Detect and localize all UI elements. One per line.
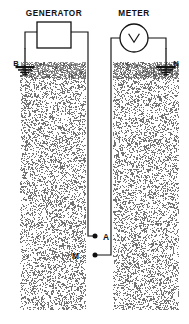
generator-label: GENERATOR — [26, 9, 83, 18]
electrode-a-node — [93, 234, 98, 239]
electrode-m-label: M — [72, 251, 79, 261]
meter-label: METER — [118, 9, 149, 18]
ground-bar — [164, 74, 169, 75]
electrode-b-label: B — [13, 59, 19, 68]
electrode-n-label: N — [173, 59, 178, 68]
electrode-a-label: A — [103, 232, 109, 242]
resistivity-diagram: GENERATOR METER B N A M — [0, 0, 189, 324]
ground-bar — [159, 69, 173, 71]
electrode-m-node — [93, 253, 98, 258]
ground-bar — [18, 69, 32, 71]
meter-circle — [120, 24, 148, 52]
schematic-canvas: GENERATOR METER B N A M — [0, 0, 189, 324]
ground-bar — [20, 72, 29, 73]
ground-bar — [161, 72, 170, 73]
ground-bar — [23, 74, 28, 75]
generator-box — [37, 22, 71, 48]
